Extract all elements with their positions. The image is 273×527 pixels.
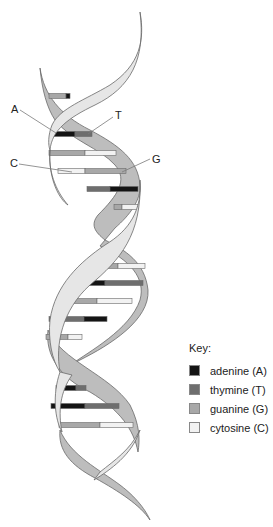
base-T — [105, 281, 143, 286]
label-cytosine: C — [10, 158, 18, 169]
base-G — [114, 205, 122, 210]
base-G — [49, 151, 85, 156]
base-G — [49, 94, 66, 99]
legend-item-adenine: adenine (A) — [189, 361, 269, 380]
legend-item-guanine: guanine (G) — [189, 399, 269, 418]
base-C — [97, 299, 132, 304]
label-thymine: T — [115, 110, 122, 121]
legend-label: guanine (G) — [210, 403, 268, 415]
base-T — [75, 132, 92, 137]
base-T — [87, 187, 110, 192]
base-G — [85, 169, 126, 174]
legend-label: thymine (T) — [210, 384, 266, 396]
legend: Key: adenine (A) thymine (T) guanine (G)… — [189, 342, 269, 437]
swatch-adenine — [189, 365, 200, 376]
legend-title: Key: — [189, 342, 269, 354]
legend-item-cytosine: cytosine (C) — [189, 418, 269, 437]
base-T — [76, 386, 86, 391]
legend-label: cytosine (C) — [210, 422, 269, 434]
swatch-thymine — [189, 384, 200, 395]
base-A — [110, 187, 138, 192]
base-A — [66, 94, 70, 99]
swatch-cytosine — [189, 422, 200, 433]
base-G — [59, 423, 100, 428]
legend-item-thymine: thymine (T) — [189, 380, 269, 399]
label-guanine: G — [152, 154, 161, 165]
base-C — [68, 335, 82, 340]
base-C — [85, 151, 116, 156]
base-A — [84, 317, 107, 322]
swatch-guanine — [189, 403, 200, 414]
base-C — [100, 423, 133, 428]
base-C — [118, 264, 145, 269]
base-T — [85, 404, 119, 409]
legend-label: adenine (A) — [210, 365, 267, 377]
dna-helix-diagram — [0, 0, 273, 527]
base-C — [122, 205, 138, 210]
base-C — [58, 169, 85, 174]
label-adenine: A — [11, 104, 18, 115]
